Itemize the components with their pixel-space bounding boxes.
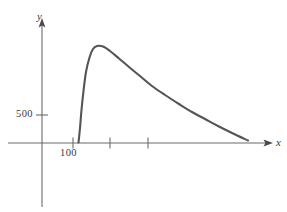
y-axis-label: y [37,11,42,22]
data-curve [79,46,249,143]
x-axis-label: x [276,137,281,148]
chart-figure: y x 500 100 [0,0,287,212]
x-tick-label-100: 100 [60,148,77,159]
plot-canvas [0,0,287,212]
y-tick-label-500: 500 [16,109,33,120]
